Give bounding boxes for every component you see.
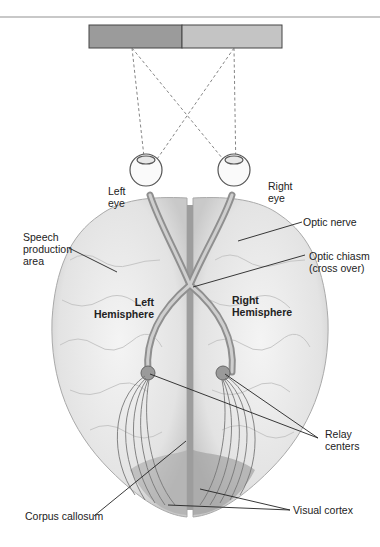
left-eye-line-1: Left — [108, 185, 126, 197]
relay-centers-label: Relay centers — [325, 428, 359, 452]
speech-line-1: Speech — [23, 231, 72, 243]
right-relay-center — [216, 366, 230, 380]
relay-line-1: Relay — [325, 428, 359, 440]
brain — [52, 198, 328, 517]
visual-cortex-label: Visual cortex — [293, 504, 353, 516]
optic-chiasm-label: Optic chiasm (cross over) — [309, 250, 370, 274]
speech-line-3: area — [23, 255, 72, 267]
speech-area-label: Speech production area — [23, 231, 72, 267]
right-eye-icon — [218, 154, 250, 186]
speech-line-2: production — [23, 243, 72, 255]
relay-line-2: centers — [325, 440, 359, 452]
corpus-callosum-label: Corpus callosum — [25, 510, 103, 522]
chiasm-line-1: Optic chiasm — [309, 250, 370, 262]
left-hemi-line-2: Hemisphere — [82, 308, 154, 320]
right-eye-label: Right eye — [268, 180, 293, 204]
left-eye-label: Left eye — [108, 185, 126, 209]
left-hemisphere-label: Left Hemisphere — [82, 296, 154, 320]
visual-field-bar — [89, 25, 282, 48]
optic-nerve-label: Optic nerve — [303, 216, 357, 228]
left-eye-icon — [130, 154, 162, 186]
right-hemi-line-2: Hemisphere — [232, 306, 292, 318]
right-eye-line-2: eye — [268, 192, 293, 204]
right-hemisphere-label: Right Hemisphere — [232, 294, 292, 318]
left-hemi-line-1: Left — [82, 296, 154, 308]
right-eye-line-1: Right — [268, 180, 293, 192]
right-hemi-line-1: Right — [232, 294, 292, 306]
chiasm-line-2: (cross over) — [309, 262, 370, 274]
left-eye-line-2: eye — [108, 197, 126, 209]
